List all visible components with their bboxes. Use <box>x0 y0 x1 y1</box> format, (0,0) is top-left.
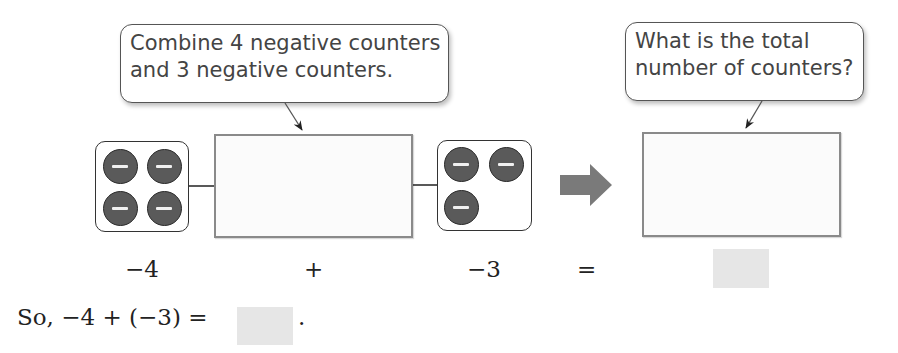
answer-blank-row[interactable] <box>713 249 769 288</box>
counter-tray-left <box>95 141 189 232</box>
result-box <box>642 132 841 237</box>
conclusion-period: . <box>298 304 305 330</box>
counter-tray-right <box>437 140 532 231</box>
term-negative-3: −3 <box>467 256 501 282</box>
term-negative-4: −4 <box>125 256 159 282</box>
combine-box <box>214 134 413 238</box>
callout-pointer-right <box>746 101 762 128</box>
equals-sign: = <box>577 256 596 282</box>
negative-counter-icon <box>147 149 182 184</box>
negative-counter-icon <box>103 191 138 226</box>
negative-counter-icon <box>103 149 138 184</box>
negative-counter-icon <box>444 147 479 182</box>
conclusion-text: So, −4 + (−3) = <box>17 304 207 330</box>
negative-counter-icon <box>147 191 182 226</box>
negative-counter-icon <box>489 147 524 182</box>
callout-pointer-left <box>285 103 302 130</box>
negative-counter-icon <box>444 190 479 225</box>
big-arrow-icon <box>560 164 612 206</box>
plus-sign: + <box>304 256 323 282</box>
answer-blank-conclusion[interactable] <box>237 307 293 345</box>
